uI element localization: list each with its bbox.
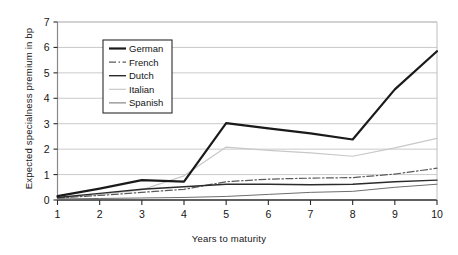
x-tick-label-2: 2 xyxy=(97,208,103,220)
y-tick-label-1: 1 xyxy=(44,169,50,181)
legend-label-spanish: Spanish xyxy=(129,97,163,108)
legend-label-dutch: Dutch xyxy=(129,70,154,81)
y-axis-title: Expected specialness premium in bp xyxy=(23,19,34,199)
y-tick-label-2: 2 xyxy=(44,143,50,155)
x-tick-label-9: 9 xyxy=(392,208,398,220)
y-tick-label-3: 3 xyxy=(44,118,50,130)
x-tick-label-8: 8 xyxy=(350,208,356,220)
series-line-italian xyxy=(58,138,438,198)
x-tick-label-5: 5 xyxy=(223,208,229,220)
x-tick-label-3: 3 xyxy=(139,208,145,220)
y-tick-label-0: 0 xyxy=(44,194,50,206)
x-tick-label-6: 6 xyxy=(265,208,271,220)
legend-label-german: German xyxy=(129,43,163,54)
x-tick-label-10: 10 xyxy=(431,208,443,220)
y-tick-label-7: 7 xyxy=(44,16,50,28)
x-tick-label-4: 4 xyxy=(181,208,187,220)
line-chart: 01234567 12345678910 GermanFrenchDutchIt… xyxy=(0,0,458,255)
x-tick-label-7: 7 xyxy=(308,208,314,220)
x-tick-label-1: 1 xyxy=(55,208,61,220)
x-axis-ticks: 12345678910 xyxy=(55,200,443,220)
y-tick-label-5: 5 xyxy=(44,67,50,79)
legend-label-french: French xyxy=(129,57,159,68)
chart-legend: GermanFrenchDutchItalianSpanish xyxy=(103,40,172,113)
y-axis-ticks: 01234567 xyxy=(44,16,58,206)
legend-label-italian: Italian xyxy=(129,84,154,95)
y-tick-label-6: 6 xyxy=(44,41,50,53)
chart-figure: 01234567 12345678910 GermanFrenchDutchIt… xyxy=(0,0,458,255)
y-tick-label-4: 4 xyxy=(44,92,50,104)
x-axis-title: Years to maturity xyxy=(0,233,458,244)
